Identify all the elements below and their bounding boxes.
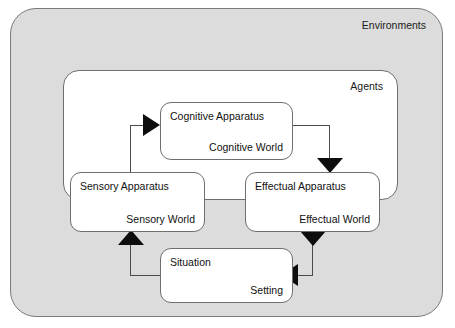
arrowhead-sensory-to-cognitive: [143, 114, 160, 136]
connector-cognitive-to-effectual-horizontal: [292, 125, 330, 126]
connector-cognitive-to-effectual-vertical: [329, 125, 330, 159]
node-cognitive-title: Cognitive Apparatus: [170, 110, 264, 122]
node-situation[interactable]: Situation Setting: [160, 248, 293, 303]
arrowhead-cognitive-to-effectual: [317, 158, 343, 173]
arrowhead-effectual-exit: [300, 231, 326, 246]
connector-situation-to-sensory-vertical: [130, 244, 131, 276]
node-sensory-apparatus[interactable]: Sensory Apparatus Sensory World: [70, 172, 205, 232]
connector-sensory-to-cognitive-vertical: [130, 125, 131, 173]
node-effectual-subtitle: Effectual World: [299, 213, 370, 225]
node-sensory-subtitle: Sensory World: [126, 213, 195, 225]
agents-label: Agents: [350, 80, 383, 92]
connector-effectual-to-situation-vertical-lower: [312, 246, 313, 276]
node-effectual-title: Effectual Apparatus: [255, 180, 346, 192]
node-sensory-title: Sensory Apparatus: [80, 180, 169, 192]
environments-label: Environments: [362, 19, 426, 31]
node-situation-subtitle: Setting: [250, 284, 283, 296]
connector-effectual-to-situation-horizontal: [296, 275, 313, 276]
connector-situation-to-sensory-horizontal: [130, 275, 161, 276]
node-cognitive-subtitle: Cognitive World: [209, 141, 283, 153]
arrowhead-situation-to-sensory: [118, 230, 144, 245]
node-situation-title: Situation: [170, 256, 211, 268]
node-cognitive-apparatus[interactable]: Cognitive Apparatus Cognitive World: [160, 102, 293, 160]
node-effectual-apparatus[interactable]: Effectual Apparatus Effectual World: [245, 172, 380, 232]
diagram-canvas: Environments Agents Cognitive Apparatus …: [0, 0, 455, 328]
